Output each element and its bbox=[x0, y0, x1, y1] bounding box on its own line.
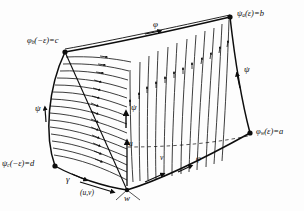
phi-curve-family bbox=[50, 57, 131, 180]
edge-label-v: v bbox=[160, 154, 163, 162]
boundary-top-edge bbox=[65, 15, 230, 52]
vertex-label-phi-b: φb(−ε)=c bbox=[27, 36, 59, 45]
edge-label-psi-right: ψ bbox=[244, 65, 250, 74]
edge-label-gamma: γ bbox=[66, 175, 70, 184]
diagram-svg bbox=[0, 0, 304, 211]
edge-label-uv: (u,v) bbox=[80, 189, 94, 197]
psi-curve-family bbox=[130, 20, 229, 182]
edge-label-phi-bottom: φ bbox=[196, 154, 201, 163]
dashed-reference-line bbox=[128, 136, 248, 147]
edge-label-psi-left: ψ bbox=[35, 104, 41, 113]
vertex-dots bbox=[52, 14, 252, 192]
vertex-label-phi-w: φw(ε)=a bbox=[256, 127, 283, 136]
figure-canvas: φb(−ε)=c ψa(ε)=b φw(ε)=a ψc(−ε)=d w φ ψ … bbox=[0, 0, 304, 211]
vertex-label-psi-a: ψa(ε)=b bbox=[237, 9, 264, 18]
vertex-label-w: w bbox=[124, 194, 130, 203]
boundary-right-edge bbox=[230, 17, 250, 133]
edge-label-phi-top: φ bbox=[153, 20, 158, 29]
psi-curve-arrows bbox=[130, 41, 228, 106]
edge-label-u: u bbox=[129, 140, 133, 148]
vertex-label-psi-c: ψc(−ε)=d bbox=[2, 159, 34, 168]
edge-label-psi-middle: ψ bbox=[131, 103, 137, 112]
boundary-left-edge bbox=[45, 52, 65, 166]
